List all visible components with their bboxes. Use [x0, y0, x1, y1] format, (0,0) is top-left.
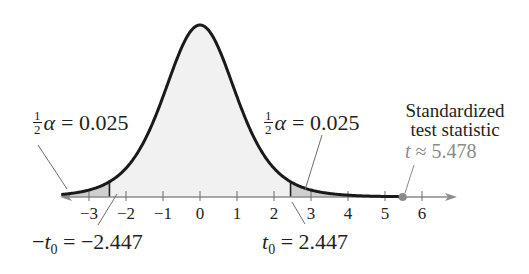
left-alpha-label: 1 2 α = 0.025	[33, 109, 128, 136]
x-tick-label: 4	[344, 205, 353, 222]
x-tick-label: 6	[418, 205, 427, 222]
one-half-fraction: 1 2	[33, 109, 42, 136]
x-tick-label: 3	[307, 205, 316, 222]
right-alpha-value: = 0.025	[292, 112, 359, 134]
right-critical-value-label: t0 = 2.447	[262, 231, 348, 257]
x-tick-label: −3	[80, 205, 98, 222]
x-tick-label: 0	[196, 205, 205, 222]
right-alpha-label: 1 2 α = 0.025	[264, 109, 359, 136]
test-statistic-point	[399, 193, 407, 201]
left-alpha-pointer	[38, 145, 67, 189]
right-alpha-pointer	[305, 135, 322, 190]
one-half-fraction: 1 2	[264, 109, 273, 136]
alpha-symbol: α	[275, 112, 287, 134]
test-statistic-value: t ≈ 5.478	[405, 141, 477, 161]
right-crit-pointer	[292, 202, 305, 224]
x-tick-label: 1	[233, 205, 242, 222]
left-alpha-value: = 0.025	[61, 112, 128, 134]
test-stat-pointer	[405, 165, 414, 193]
x-tick-label: −2	[117, 205, 135, 222]
x-tick-label: 5	[381, 205, 390, 222]
alpha-symbol: α	[44, 112, 56, 134]
left-crit-pointer	[98, 194, 117, 225]
x-tick-label: 2	[270, 205, 279, 222]
test-statistic-caption: Standardized test statistic	[385, 101, 525, 139]
x-tick-label: −1	[154, 205, 172, 222]
left-critical-value-label: −t0 = −2.447	[32, 231, 143, 257]
